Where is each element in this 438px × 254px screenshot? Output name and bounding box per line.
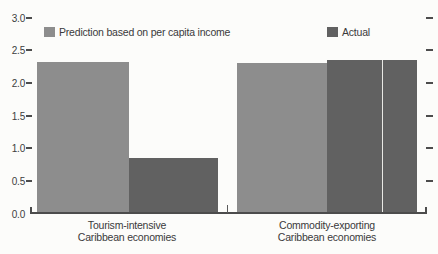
bar-prediction-group1 [37, 62, 129, 214]
y-axis-tick-left [26, 115, 32, 117]
category-label-line: Caribbean economies [27, 232, 227, 244]
y-axis-tick-label: 0.0 [2, 209, 25, 220]
y-axis-corner-right [425, 207, 427, 214]
bar-prediction-group2 [237, 63, 327, 213]
category-label-commodity: Commodity-exporting Caribbean economies [227, 220, 427, 243]
plot-area: 3.02.52.01.51.00.50.0 [0, 0, 438, 254]
y-axis-tick-label: 1.0 [2, 143, 25, 154]
y-axis-corner-left [30, 207, 32, 214]
category-label-tourism: Tourism-intensive Caribbean economies [27, 220, 227, 243]
y-axis-tick-right [426, 180, 433, 182]
category-label-line: Caribbean economies [227, 232, 427, 244]
y-axis-tick-right [426, 49, 433, 51]
scan-artifact-line [382, 60, 383, 214]
y-axis-tick-right [426, 115, 433, 117]
y-axis-tick-label: 2.5 [2, 45, 25, 56]
bar-actual-group1 [129, 158, 218, 214]
bar-chart-figure: Prediction based on per capita income Ac… [0, 0, 438, 254]
y-axis-tick-right [426, 82, 433, 84]
y-axis-tick-left [26, 49, 32, 51]
y-axis-tick-left [26, 180, 32, 182]
y-axis-tick-left [26, 82, 32, 84]
y-axis-tick-left [26, 17, 32, 19]
category-label-line: Tourism-intensive [27, 220, 227, 232]
y-axis-tick-label: 0.5 [2, 176, 25, 187]
y-axis-tick-right [426, 17, 433, 19]
y-axis-tick-right [426, 147, 433, 149]
bar-actual-group2 [327, 60, 417, 214]
y-axis-tick-label: 3.0 [2, 13, 25, 24]
y-axis-tick-label: 2.0 [2, 78, 25, 89]
category-divider-tick [227, 205, 228, 213]
category-label-line: Commodity-exporting [227, 220, 427, 232]
y-axis-tick-label: 1.5 [2, 111, 25, 122]
x-axis-line [31, 212, 427, 214]
y-axis-tick-left [26, 147, 32, 149]
